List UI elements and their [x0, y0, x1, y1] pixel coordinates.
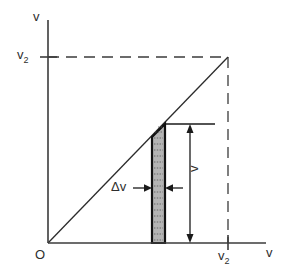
figure-container: v v2 O v2 v Δv v — [0, 0, 287, 278]
x-axis-tick-label: v2 — [218, 249, 230, 266]
width-arrow-right — [165, 184, 173, 191]
origin-label: O — [35, 248, 45, 261]
width-arrow-left — [144, 184, 152, 191]
shaded-strip — [152, 124, 165, 243]
plot-canvas — [0, 0, 287, 278]
y-axis-label: v — [33, 10, 40, 23]
diagonal-curve — [48, 57, 228, 243]
height-arrow-up — [187, 124, 194, 133]
strip-width-label: Δv — [111, 180, 126, 193]
y-axis-tick-label: v2 — [17, 48, 29, 65]
strip-height-label: v — [187, 166, 200, 173]
y-tick-subscript: 2 — [24, 55, 29, 65]
height-arrow-down — [187, 234, 194, 243]
x-axis-label: v — [266, 246, 273, 259]
x-tick-subscript: 2 — [225, 256, 230, 266]
